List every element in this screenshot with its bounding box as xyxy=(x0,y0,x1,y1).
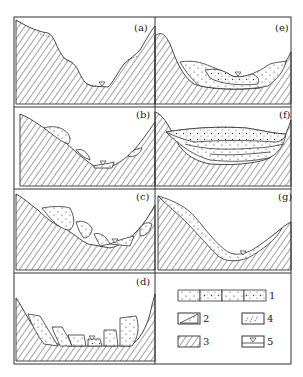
loose-debris-icon xyxy=(246,316,258,322)
panel-d: (d) xyxy=(16,276,155,361)
panel-d-label: (d) xyxy=(136,276,150,287)
landslide-wedge-icon xyxy=(180,314,198,323)
valley-evolution-diagram: (a) (e) (b) (f) (c) xyxy=(0,0,303,377)
panel-g: (g) xyxy=(158,191,292,270)
panel-a: (a) xyxy=(16,20,155,104)
legend-number-4: 4 xyxy=(267,313,273,324)
legend-item-2: 2 xyxy=(178,313,209,324)
legend-swatch-1a xyxy=(178,290,200,301)
panel-e-label: (e) xyxy=(275,22,289,33)
panel-d-terrace-4 xyxy=(104,330,118,346)
panel-e-water-table-icon xyxy=(235,72,241,76)
panel-c-sediment-2 xyxy=(76,221,92,238)
legend-number-2: 2 xyxy=(203,313,209,324)
legend-swatch-1c xyxy=(222,290,244,301)
panel-a-water-table-icon xyxy=(99,82,105,86)
panel-b-label: (b) xyxy=(136,109,150,120)
legend-item-5: 5 xyxy=(242,336,273,347)
legend-item-3: 3 xyxy=(178,336,209,347)
panel-f: (f) xyxy=(155,109,291,186)
panel-a-label: (a) xyxy=(134,22,148,33)
legend-item-1: 1 xyxy=(178,290,275,301)
panel-g-label: (g) xyxy=(278,191,292,202)
legend: 1 2 4 3 5 xyxy=(178,290,275,347)
legend-swatch-4 xyxy=(242,313,264,324)
legend-number-3: 3 xyxy=(203,336,209,347)
legend-number-1: 1 xyxy=(269,290,275,301)
panel-c-sediment-3 xyxy=(94,233,110,246)
legend-number-5: 5 xyxy=(267,336,273,347)
legend-swatch-1b xyxy=(200,290,222,301)
legend-swatch-3 xyxy=(178,336,200,347)
panel-b: (b) xyxy=(20,109,155,186)
panel-d-debris xyxy=(88,339,102,346)
water-table-icon xyxy=(250,338,256,342)
legend-swatch-1d xyxy=(244,290,266,301)
panel-c: (c) xyxy=(16,191,155,270)
panel-e: (e) xyxy=(155,22,291,104)
panel-f-label: (f) xyxy=(279,109,291,120)
legend-item-4: 4 xyxy=(242,313,273,324)
panel-c-label: (c) xyxy=(136,191,150,202)
